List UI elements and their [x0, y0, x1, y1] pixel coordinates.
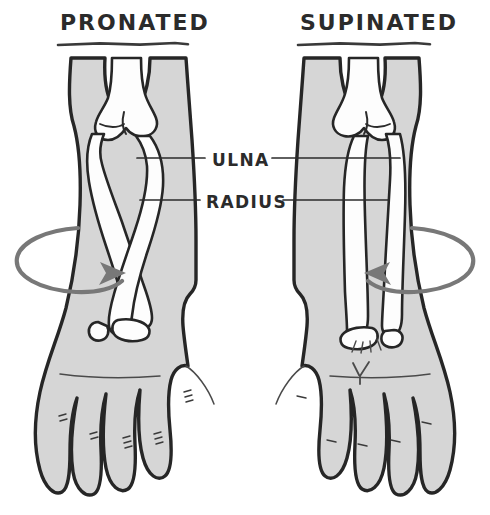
- title-underline-left: [58, 43, 188, 45]
- right-arm-group: [276, 58, 455, 495]
- title-underline-right: [298, 43, 430, 45]
- label-ulna: ULNA: [212, 150, 270, 170]
- left-distal-ulna-head: [89, 322, 109, 341]
- title-supinated: SUPINATED: [300, 10, 458, 35]
- right-radius: [344, 136, 368, 339]
- right-distal-ulna-head: [381, 330, 402, 347]
- panel-pronated: PRONATED: [17, 10, 214, 495]
- left-thumb-crease: [186, 366, 214, 404]
- right-thumb-crease: [276, 366, 304, 404]
- title-pronated: PRONATED: [60, 10, 210, 35]
- forearm-rotation-diagram: PRONATED: [0, 0, 490, 515]
- anatomy-figure: PRONATED: [0, 0, 490, 515]
- right-distal-radius-head: [341, 327, 378, 349]
- label-radius: RADIUS: [206, 192, 287, 212]
- panel-supinated: SUPINATED: [276, 10, 473, 495]
- left-distal-radius-head: [112, 319, 149, 341]
